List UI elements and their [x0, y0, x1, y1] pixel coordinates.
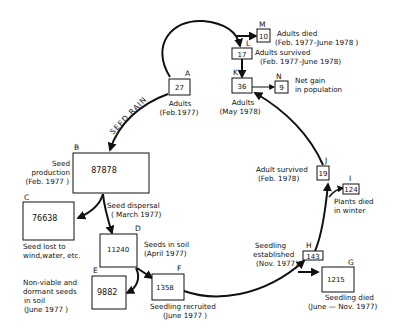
node-g-letter: G [348, 258, 354, 267]
node-d-value: 11240 [107, 246, 129, 254]
node-a-date: (Feb.1977) [160, 108, 199, 117]
node-e-letter: E [93, 266, 98, 275]
node-j-label: Adult survived [256, 165, 308, 174]
node-b-value: 87878 [91, 166, 116, 175]
node-c-label-2: wind,water, etc. [23, 251, 81, 260]
node-a-label: Adults [169, 99, 192, 108]
node-j-letter: J [324, 156, 327, 165]
node-i-value: 124 [344, 186, 358, 194]
node-a: A 27 Adults (Feb.1977) [160, 69, 199, 117]
node-d: D 11240 Seeds in soil (April 1977) [100, 224, 189, 267]
node-b-label-2: production [31, 168, 70, 177]
node-k-label: Adults [232, 98, 255, 107]
node-f-letter: F [177, 264, 181, 273]
node-a-value: 27 [175, 84, 184, 92]
node-k: K 36 Adults (May 1978) [219, 68, 260, 116]
node-n: N 9 Net gain in population [275, 72, 342, 94]
node-e-date: (June 1977 ) [24, 305, 68, 314]
node-g-label: Seedling died [325, 293, 374, 302]
node-h: H 143 Seedling established (Nov. 1977) [253, 241, 323, 268]
node-b-letter: B [74, 143, 79, 152]
node-k-date: (May 1978) [219, 107, 260, 116]
node-m-value: 10 [259, 33, 268, 41]
node-b-label-1: Seed [52, 159, 70, 168]
edge-branch-to-i [329, 188, 343, 197]
node-i-label-2: in winter [334, 206, 366, 215]
node-d-label: Seeds in soil [144, 240, 189, 249]
node-e-label-2: dormant seeds [23, 287, 77, 296]
node-h-value: 143 [306, 253, 319, 261]
node-b: B 87878 Seed production (Feb. 1977 ) [26, 143, 149, 193]
node-c-label-1: Seed lost to [23, 242, 66, 251]
node-m-label: Adults died [277, 29, 317, 38]
node-i-letter: I [349, 174, 351, 183]
node-l-label: Adults survived [255, 48, 311, 57]
node-g-date: (June — Nov. 1977) [308, 302, 378, 311]
node-e-value: 9882 [97, 288, 117, 297]
node-k-value: 36 [238, 83, 247, 91]
edge-h-to-j [315, 184, 328, 251]
node-c-value: 76638 [32, 214, 57, 223]
node-a-letter: A [185, 69, 191, 78]
node-m-letter: M [259, 20, 265, 29]
node-c: C 76638 Seed lost to wind,water, etc. [23, 193, 81, 260]
node-g: G 1215 Seedling died (June — Nov. 1977) [308, 258, 378, 311]
node-j-value: 19 [319, 170, 328, 178]
node-f: F 1358 Seedling recruited (June 1977 ) [150, 264, 216, 320]
node-n-value: 9 [279, 84, 283, 92]
edge-d-to-f [137, 268, 152, 278]
node-m-date: (Feb. 1977–June 1978 ) [275, 38, 358, 47]
node-m: M 10 Adults died (Feb. 1977–June 1978 ) [257, 20, 358, 47]
node-n-label-2: in population [295, 85, 342, 94]
node-e-label-1: Non-viable and [23, 278, 77, 287]
node-g-value: 1215 [327, 276, 345, 284]
node-n-label-1: Net gain [295, 76, 325, 85]
node-f-value: 1358 [156, 284, 174, 292]
node-j-date: (Feb. 1978) [258, 174, 299, 183]
node-l-value: 17 [238, 51, 247, 59]
node-c-letter: C [24, 193, 29, 202]
node-k-letter: K [233, 68, 239, 77]
node-h-label-1: Seedling [255, 241, 286, 250]
life-cycle-diagram: SEED RAIN Seed dispersal ( March 1977) A… [0, 0, 397, 332]
node-j: J 19 Adult survived (Feb. 1978) [256, 156, 329, 183]
node-l-letter: L [246, 39, 251, 48]
seed-dispersal-label: Seed dispersal [107, 201, 160, 210]
node-h-letter: H [306, 241, 312, 250]
node-b-date: (Feb. 1977 ) [26, 177, 70, 186]
edge-b-to-c [78, 194, 103, 218]
edge-a-to-l [162, 21, 240, 77]
node-e: E 9882 Non-viable and dormant seeds in s… [23, 266, 126, 314]
node-l-date: (Feb. 1977–June 1978) [260, 57, 341, 66]
edge-d-to-e [127, 268, 138, 293]
seed-rain-label: SEED RAIN [108, 95, 149, 137]
node-f-date: (June 1977 ) [163, 311, 207, 320]
node-h-date: (Nov. 1977) [256, 259, 298, 268]
node-e-label-3: in soil [24, 296, 45, 305]
node-n-letter: N [276, 72, 282, 81]
node-i: I 124 Plants died in winter [334, 174, 374, 215]
seed-dispersal-date: ( March 1977) [111, 210, 162, 219]
node-d-letter: D [135, 224, 141, 233]
node-i-label-1: Plants died [334, 197, 374, 206]
node-d-date: (April 1977) [144, 249, 187, 258]
node-h-label-2: established [253, 250, 294, 259]
node-f-label: Seedling recruited [150, 302, 216, 311]
edge-j-to-k [255, 93, 323, 165]
